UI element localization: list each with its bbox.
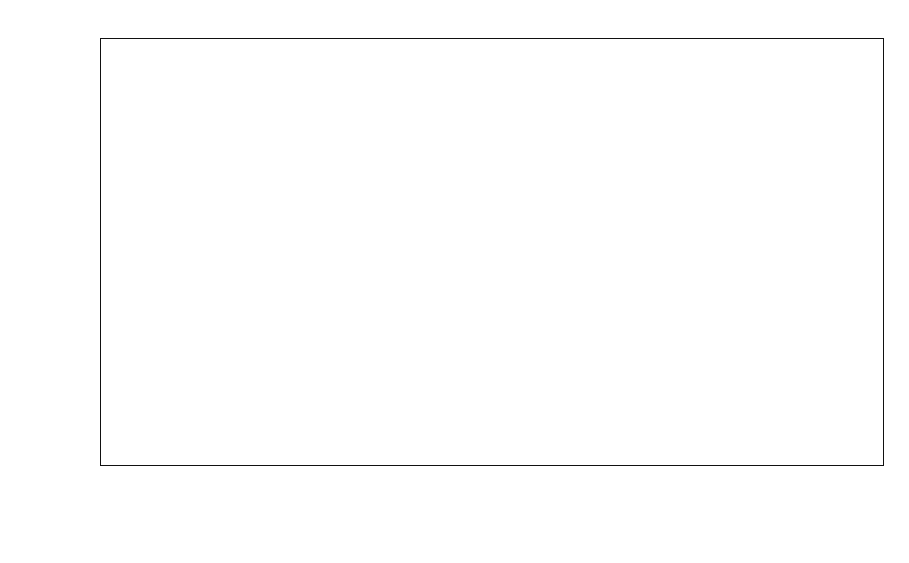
pollen-diagram xyxy=(0,0,909,563)
x-axis-ticks-and-labels xyxy=(0,0,909,563)
